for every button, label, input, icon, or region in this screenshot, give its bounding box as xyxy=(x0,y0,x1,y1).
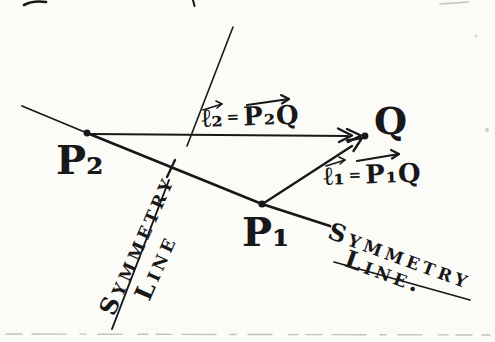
equation-l2-equals: = xyxy=(226,108,239,126)
point-dot-p1 xyxy=(258,200,265,207)
speck-artifact xyxy=(485,128,489,132)
equation-l2-rhs: P₂Q xyxy=(243,100,301,132)
top-right-artifact xyxy=(440,2,468,4)
equation-l2-lhs: ℓ₂ xyxy=(201,102,223,134)
top-remnant-dash xyxy=(193,0,195,6)
bottom-rule-artifact xyxy=(6,334,490,335)
point-label-p1: P₁ xyxy=(242,212,290,252)
arrow-p2-to-q-shaft xyxy=(91,134,348,136)
equation-l2: ℓ₂ = P₂Q xyxy=(201,100,300,134)
symmetry-line-right-upper-segment xyxy=(22,106,87,133)
equation-l1-equals: = xyxy=(348,166,361,184)
point-label-q: Q xyxy=(374,102,407,140)
speck-artifact xyxy=(474,34,477,37)
top-remnant-mark xyxy=(24,1,46,5)
symmetry-line-right-main-segment xyxy=(87,133,330,226)
equation-l1-lhs: ℓ₁ xyxy=(323,160,345,192)
equation-l1-rhs: P₁Q xyxy=(365,158,423,190)
diagram-canvas: ℓ₂ = P₂Q ℓ₁ = P₁Q P₂ P₁ Q Symmetry Line … xyxy=(0,0,495,342)
point-label-p2: P₂ xyxy=(56,140,104,180)
equation-l1: ℓ₁ = P₁Q xyxy=(323,158,422,192)
point-dot-q xyxy=(362,133,369,140)
